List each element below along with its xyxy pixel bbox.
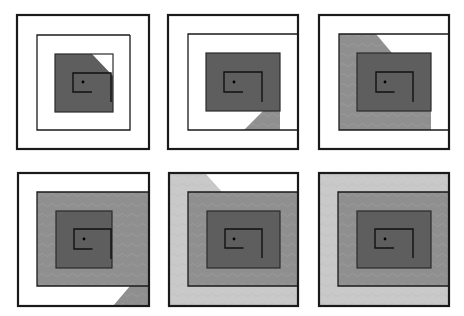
- panels-layer: [17, 15, 449, 306]
- panel-4: [18, 173, 149, 306]
- fill-dark: [357, 211, 431, 268]
- center-dot: [82, 81, 85, 84]
- fill-dark: [206, 53, 280, 111]
- fill-dark: [55, 54, 113, 112]
- center-dot: [384, 81, 387, 84]
- nested-squares-figure: [0, 0, 464, 316]
- panel-5: [169, 173, 298, 306]
- center-dot: [83, 238, 86, 241]
- panel-1: [17, 15, 149, 149]
- fill-dark: [357, 53, 431, 111]
- diagram-stage: [0, 0, 464, 316]
- fill-dark: [207, 211, 280, 268]
- center-dot: [233, 238, 236, 241]
- panel-6: [319, 173, 449, 306]
- panel-3: [319, 15, 449, 149]
- center-dot: [233, 81, 236, 84]
- panel-2: [168, 15, 298, 149]
- center-dot: [384, 238, 387, 241]
